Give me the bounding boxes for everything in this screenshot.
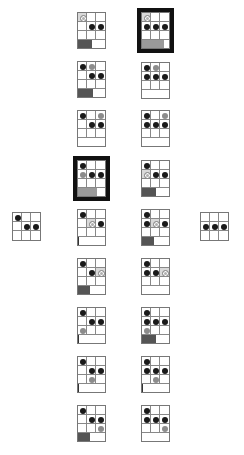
grid-cell (160, 228, 169, 237)
black-dot-icon (144, 65, 150, 71)
right-column-grid-2 (141, 62, 170, 99)
cell-grid (78, 111, 105, 138)
black-dot-icon (162, 417, 168, 423)
black-dot-icon (153, 319, 159, 325)
grid-cell (142, 161, 151, 170)
grid-cell (142, 366, 151, 375)
grid-cell (96, 424, 105, 433)
black-dot-icon (80, 310, 86, 316)
grid-cell (160, 72, 169, 81)
grid-cell (87, 415, 96, 424)
grid-cell (210, 222, 219, 231)
black-dot-icon (89, 417, 95, 423)
grid-cell (87, 277, 96, 286)
left-column-grid-5 (77, 209, 106, 246)
black-dot-icon (80, 359, 86, 365)
grid-cell (151, 170, 160, 179)
cell-grid (78, 62, 105, 89)
grid-cell (151, 219, 160, 228)
black-dot-icon (144, 221, 150, 227)
black-dot-icon (144, 261, 150, 267)
progress-bar (78, 384, 105, 392)
grid-cell (96, 268, 105, 277)
cell-grid (78, 13, 105, 40)
black-dot-icon (144, 319, 150, 325)
grid-cell (201, 222, 210, 231)
grid-cell (151, 111, 160, 120)
grid-cell (78, 326, 87, 335)
progress-bar (78, 40, 105, 48)
grid-cell (160, 129, 169, 138)
grid-cell (151, 277, 160, 286)
black-dot-icon (203, 224, 209, 230)
grid-cell (160, 406, 169, 415)
black-dot-icon (24, 224, 30, 230)
grid-cell (78, 80, 87, 89)
black-dot-icon (89, 270, 95, 276)
grid-cell (87, 228, 96, 237)
grid-cell (219, 231, 228, 240)
gray-dot-icon (162, 113, 168, 119)
left-column-grid-3 (77, 110, 106, 147)
black-dot-icon (162, 221, 168, 227)
grid-cell (78, 22, 87, 31)
grid-cell (160, 170, 169, 179)
grid-cell (151, 366, 160, 375)
grid-cell (160, 259, 169, 268)
grid-cell (87, 357, 96, 366)
grid-cell (78, 219, 87, 228)
black-dot-icon (162, 172, 168, 178)
cell-grid (201, 213, 228, 240)
black-dot-icon (144, 310, 150, 316)
grid-cell (151, 424, 160, 433)
progress-bar (78, 237, 105, 245)
gray-dot-icon (153, 65, 159, 71)
cell-grid (78, 308, 105, 335)
black-dot-icon (144, 212, 150, 218)
right-column-grid-5 (141, 209, 170, 246)
cell-grid (142, 210, 169, 237)
grid-cell (142, 406, 151, 415)
grid-cell (87, 406, 96, 415)
grid-cell (96, 120, 105, 129)
grid-cell (87, 170, 96, 179)
cell-grid (13, 213, 40, 240)
grid-cell (151, 326, 160, 335)
grid-cell (151, 179, 160, 188)
gray-dot-icon (80, 328, 86, 334)
grid-cell (142, 424, 151, 433)
grid-cell (78, 120, 87, 129)
gray-dot-icon (89, 64, 95, 70)
grid-cell (87, 317, 96, 326)
progress-fill (78, 237, 79, 245)
ring-dot-icon (153, 221, 160, 228)
grid-cell (13, 222, 22, 231)
progress-bar (78, 286, 105, 294)
grid-cell (22, 222, 31, 231)
grid-cell (210, 213, 219, 222)
grid-cell (96, 179, 105, 188)
ring-dot-icon (144, 172, 151, 179)
grid-cell (219, 222, 228, 231)
grid-cell (151, 210, 160, 219)
progress-fill (142, 237, 154, 245)
cell-grid (78, 406, 105, 433)
progress-bar (142, 138, 169, 146)
grid-cell (160, 277, 169, 286)
progress-bar (142, 335, 169, 343)
black-dot-icon (144, 113, 150, 119)
grid-cell (78, 317, 87, 326)
grid-cell (151, 357, 160, 366)
grid-cell (151, 415, 160, 424)
grid-cell (87, 13, 96, 22)
black-dot-icon (98, 319, 104, 325)
grid-cell (142, 81, 151, 90)
black-dot-icon (144, 408, 150, 414)
figure-caption-cropped (0, 448, 244, 455)
progress-fill (142, 384, 143, 392)
grid-cell (96, 31, 105, 40)
progress-bar (142, 286, 169, 294)
grid-cell (87, 31, 96, 40)
cell-grid (78, 357, 105, 384)
grid-cell (160, 415, 169, 424)
